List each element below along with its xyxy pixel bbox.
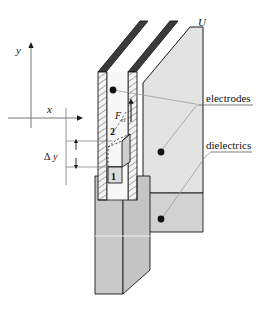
delta-symbol-label: Δ: [44, 151, 51, 162]
dielectric-marker-dot-2: [158, 216, 165, 223]
dielectrics-label: dielectrics: [206, 139, 251, 151]
electrodes-label: electrodes: [206, 92, 251, 104]
lower-dielectric-wedge: [143, 193, 203, 232]
delta-var-label: y: [52, 151, 58, 162]
voltage-label: U: [198, 16, 207, 28]
state-1-label: 1: [111, 171, 116, 182]
capacitor-diagram: y x: [0, 0, 267, 312]
force-subscript-label: el: [121, 117, 126, 123]
x-axis-label: x: [46, 103, 52, 115]
y-axis-label: y: [15, 44, 21, 56]
figure-canvas: y x: [0, 0, 267, 312]
front-dielectric-face: [98, 72, 107, 200]
state-2-label: 2: [110, 126, 115, 137]
electrode-marker-dot-1: [110, 87, 117, 94]
dielectric-marker-dot-1: [158, 149, 165, 156]
